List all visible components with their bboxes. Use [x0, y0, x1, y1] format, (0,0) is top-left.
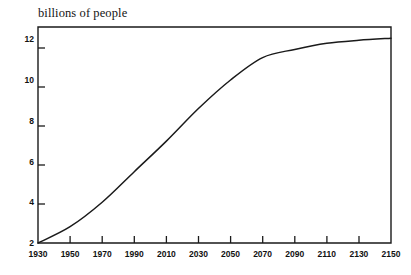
y-tick-label-8: 8 [14, 116, 34, 126]
x-tick-label-2150: 2150 [382, 249, 401, 259]
population-curve [38, 38, 391, 243]
plot-area [0, 0, 411, 275]
x-tick-label-2130: 2130 [349, 249, 368, 259]
x-tick-label-1930: 1930 [29, 249, 48, 259]
x-tick-label-1970: 1970 [93, 249, 112, 259]
x-tick-label-2030: 2030 [189, 249, 208, 259]
y-tick-label-4: 4 [14, 197, 34, 207]
x-tick-label-2070: 2070 [253, 249, 272, 259]
x-axis-ticks [70, 236, 359, 243]
plot-frame [38, 27, 391, 243]
x-tick-label-1950: 1950 [61, 249, 80, 259]
x-tick-label-2010: 2010 [157, 249, 176, 259]
x-tick-label-1990: 1990 [125, 249, 144, 259]
y-axis-ticks [38, 48, 45, 204]
y-tick-label-10: 10 [14, 75, 34, 85]
x-tick-label-2050: 2050 [221, 249, 240, 259]
y-tick-label-2: 2 [14, 238, 34, 248]
x-tick-label-2110: 2110 [318, 249, 336, 259]
x-tick-label-2090: 2090 [285, 249, 304, 259]
chart-figure: billions of people 24681012 193019501970… [0, 0, 411, 275]
y-tick-label-6: 6 [14, 157, 34, 167]
y-tick-label-12: 12 [14, 34, 34, 44]
